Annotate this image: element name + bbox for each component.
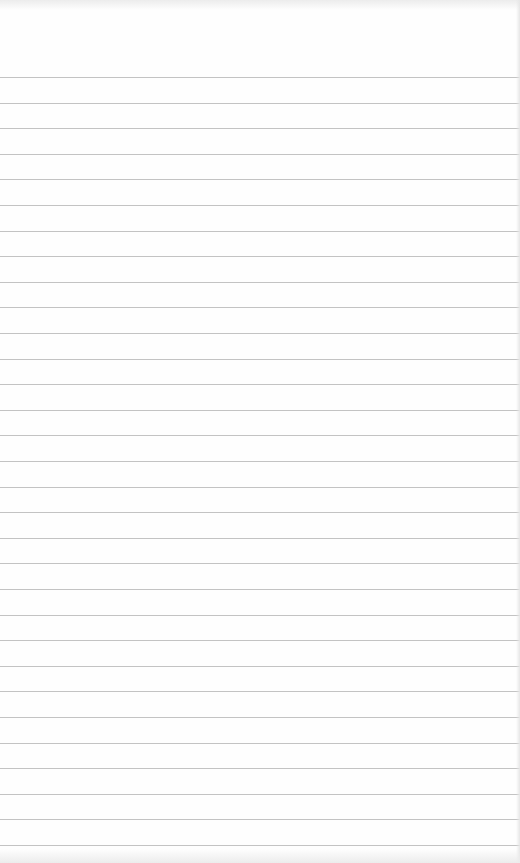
ruled-line — [0, 819, 520, 820]
ruled-line — [0, 333, 520, 334]
ruled-line — [0, 205, 520, 206]
ruled-line — [0, 128, 520, 129]
top-edge-shadow — [0, 0, 520, 10]
ruled-line — [0, 768, 520, 769]
ruled-line — [0, 435, 520, 436]
ruled-line — [0, 179, 520, 180]
ruled-line — [0, 231, 520, 232]
ruled-line — [0, 77, 520, 78]
ruled-line — [0, 845, 520, 846]
ruled-line — [0, 794, 520, 795]
ruled-line — [0, 410, 520, 411]
ruled-line — [0, 256, 520, 257]
ruled-line — [0, 615, 520, 616]
ruled-line — [0, 307, 520, 308]
ruled-line — [0, 384, 520, 385]
lined-paper — [0, 0, 520, 863]
ruled-line — [0, 640, 520, 641]
ruled-line — [0, 563, 520, 564]
ruled-line — [0, 666, 520, 667]
right-edge-shadow — [516, 0, 520, 863]
ruled-line — [0, 691, 520, 692]
ruled-line — [0, 461, 520, 462]
ruled-line — [0, 512, 520, 513]
ruled-line — [0, 282, 520, 283]
bottom-edge-shadow — [0, 849, 520, 863]
ruled-line — [0, 487, 520, 488]
ruled-line — [0, 538, 520, 539]
ruled-line — [0, 717, 520, 718]
ruled-line — [0, 589, 520, 590]
ruled-line — [0, 103, 520, 104]
ruled-line — [0, 359, 520, 360]
ruled-line — [0, 154, 520, 155]
ruled-line — [0, 743, 520, 744]
